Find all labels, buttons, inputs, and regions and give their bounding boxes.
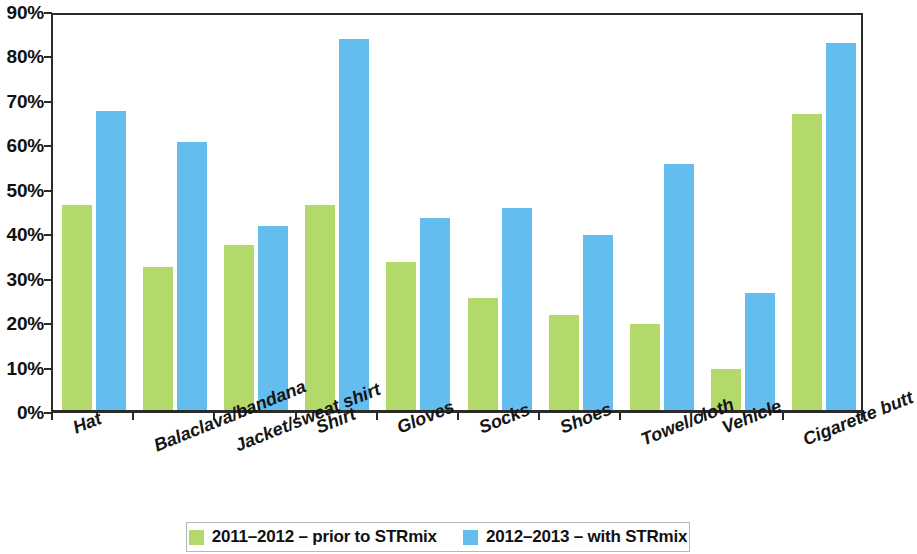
bar-with: [177, 142, 207, 410]
bar-prior: [549, 315, 579, 410]
bar-prior: [143, 267, 173, 410]
bar-prior: [468, 298, 498, 410]
bar-with: [96, 111, 126, 410]
x-axis-category-label: Hat: [70, 408, 105, 438]
y-axis-tick-label: 90%: [7, 2, 44, 24]
legend-swatch-icon: [463, 530, 478, 545]
bar-group: [378, 15, 459, 410]
plot-area: [51, 13, 863, 413]
legend-item: 2011–2012 – prior to STRmix: [189, 527, 437, 547]
y-axis-tick-label: 10%: [7, 358, 44, 380]
bar-with: [826, 43, 856, 410]
bar-prior: [386, 262, 416, 410]
y-axis-tick-label: 60%: [7, 135, 44, 157]
bar-group: [297, 15, 378, 410]
y-axis-tick-label: 30%: [7, 269, 44, 291]
bar-with: [745, 293, 775, 410]
y-axis-tick-label: 70%: [7, 91, 44, 113]
legend-label: 2011–2012 – prior to STRmix: [212, 527, 437, 547]
bar-prior: [62, 205, 92, 410]
bar-group: [540, 15, 621, 410]
bar-group: [53, 15, 134, 410]
y-axis-tick-label: 20%: [7, 313, 44, 335]
bar-group: [134, 15, 215, 410]
legend-swatch-icon: [189, 530, 204, 545]
bar-with: [339, 39, 369, 410]
bar-prior: [305, 205, 335, 410]
bar-group: [703, 15, 784, 410]
bar-group: [621, 15, 702, 410]
y-axis-tick-label: 80%: [7, 46, 44, 68]
legend-item: 2012–2013 – with STRmix: [463, 527, 687, 547]
chart-legend: 2011–2012 – prior to STRmix2012–2013 – w…: [186, 522, 690, 552]
legend-label: 2012–2013 – with STRmix: [486, 527, 687, 547]
bar-group: [784, 15, 865, 410]
y-axis-tick-label: 40%: [7, 224, 44, 246]
bar-with: [502, 208, 532, 410]
bar-prior: [224, 245, 254, 410]
y-axis: 90%80%70%60%50%40%30%20%10%0%: [0, 0, 48, 420]
bar-prior: [630, 324, 660, 410]
bar-with: [583, 235, 613, 410]
bar-with: [420, 218, 450, 410]
bar-group: [459, 15, 540, 410]
bar-prior: [792, 114, 822, 410]
bars-layer: [53, 15, 861, 410]
x-axis-labels: HatBalaclava/bandanaJacket/sweat shirtSh…: [0, 413, 874, 518]
bar-with: [664, 164, 694, 410]
y-axis-tick-label: 50%: [7, 180, 44, 202]
bar-group: [215, 15, 296, 410]
